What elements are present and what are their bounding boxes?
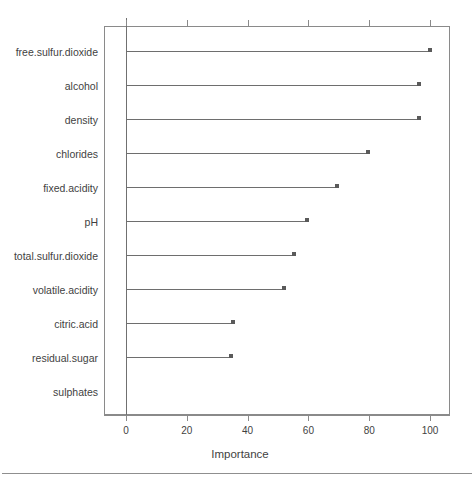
category-label: pH [85, 214, 98, 230]
value-dot-marker [229, 354, 233, 358]
chart-row: sulphates [0, 384, 476, 400]
x-axis-tick-top [308, 20, 309, 26]
value-stem [126, 289, 284, 290]
category-label: chlorides [56, 146, 98, 162]
x-axis-tick [248, 415, 249, 421]
category-label: fixed.acidity [43, 180, 98, 196]
category-label: free.sulfur.dioxide [16, 44, 98, 60]
value-stem [126, 255, 294, 256]
data-rows-layer: free.sulfur.dioxidealcoholdensitychlorid… [0, 0, 476, 486]
category-label: total.sulfur.dioxide [14, 248, 98, 264]
x-axis-tick [126, 415, 127, 421]
chart-row: pH [0, 214, 476, 230]
value-dot-marker [305, 218, 309, 222]
x-axis-tick-label: 20 [181, 425, 192, 436]
chart-row: residual.sugar [0, 350, 476, 366]
value-stem [126, 85, 419, 86]
category-label: sulphates [53, 384, 98, 400]
chart-row: free.sulfur.dioxide [0, 44, 476, 60]
value-stem [126, 323, 233, 324]
x-axis-tick [187, 415, 188, 421]
x-axis-tick [369, 415, 370, 421]
category-label: density [65, 112, 98, 128]
x-axis-tick-top [369, 20, 370, 26]
value-stem [126, 51, 430, 52]
category-label: citric.acid [54, 316, 98, 332]
value-stem [126, 187, 337, 188]
x-axis-tick-label: 80 [364, 425, 375, 436]
x-axis-tick-label: 100 [422, 425, 439, 436]
x-axis-tick-label: 0 [123, 425, 129, 436]
chart-row: citric.acid [0, 316, 476, 332]
x-axis-tick-top [187, 20, 188, 26]
value-dot-marker [417, 116, 421, 120]
value-stem [126, 119, 419, 120]
x-axis-title: Importance [0, 448, 476, 460]
value-dot-marker [417, 82, 421, 86]
value-dot-marker [366, 150, 370, 154]
x-axis-tick [430, 415, 431, 421]
x-axis-tick [308, 415, 309, 421]
value-dot-marker [282, 286, 286, 290]
chart-row: density [0, 112, 476, 128]
chart-row: chlorides [0, 146, 476, 162]
x-axis-tick-top [248, 20, 249, 26]
footer-divider [2, 473, 472, 474]
chart-row: volatile.acidity [0, 282, 476, 298]
x-axis-title-text: Importance [211, 448, 269, 460]
x-axis-tick-label: 40 [242, 425, 253, 436]
importance-dotchart-figure: free.sulfur.dioxidealcoholdensitychlorid… [0, 0, 476, 486]
value-stem [126, 221, 307, 222]
x-axis-tick-label: 60 [303, 425, 314, 436]
value-dot-marker [428, 48, 432, 52]
chart-row: fixed.acidity [0, 180, 476, 196]
value-dot-marker [231, 320, 235, 324]
chart-row: total.sulfur.dioxide [0, 248, 476, 264]
value-stem [126, 153, 368, 154]
chart-row: alcohol [0, 78, 476, 94]
x-axis-tick-top [126, 20, 127, 26]
category-label: alcohol [65, 78, 98, 94]
category-label: volatile.acidity [33, 282, 98, 298]
value-dot-marker [335, 184, 339, 188]
category-label: residual.sugar [32, 350, 98, 366]
x-axis-tick-top [430, 20, 431, 26]
value-dot-marker [292, 252, 296, 256]
x-axis-line [104, 415, 450, 416]
value-stem [126, 357, 231, 358]
